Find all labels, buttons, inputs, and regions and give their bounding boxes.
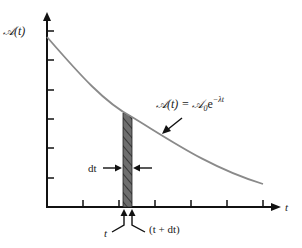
- x-axis-label: t: [285, 201, 289, 213]
- equation-lhs: 𝒜(t) = 𝒜: [156, 97, 207, 111]
- arrow-left-icon: [133, 165, 140, 172]
- equation-pointer: [162, 118, 182, 134]
- diagram-canvas: 𝒜(t) t 𝒜(t) = 𝒜0e−λt dt t (t + dt): [0, 0, 302, 248]
- y-axis-arrow-icon: [43, 12, 51, 21]
- y-axis-label: 𝒜(t): [3, 24, 25, 38]
- x-axis: [46, 200, 281, 211]
- strip-left-label: t: [104, 227, 108, 239]
- arrow-right-icon: [115, 165, 122, 172]
- y-axis: [43, 12, 54, 208]
- equation-label: 𝒜(t) = 𝒜0e−λt: [156, 95, 225, 113]
- decay-curve: [47, 37, 263, 184]
- arrow-up-icon: [129, 209, 136, 216]
- arrow-up-icon: [121, 209, 128, 216]
- strip-right-label: (t + dt): [149, 223, 180, 236]
- dt-strip: [123, 113, 132, 207]
- arrow-down-left-icon: [162, 125, 171, 134]
- decay-diagram: 𝒜(t) t 𝒜(t) = 𝒜0e−λt dt t (t + dt): [0, 0, 302, 248]
- equation-exponent: −λt: [213, 95, 225, 104]
- strip-edge-arrows: [112, 209, 145, 232]
- x-axis-arrow-icon: [271, 203, 281, 211]
- dt-label: dt: [88, 162, 97, 174]
